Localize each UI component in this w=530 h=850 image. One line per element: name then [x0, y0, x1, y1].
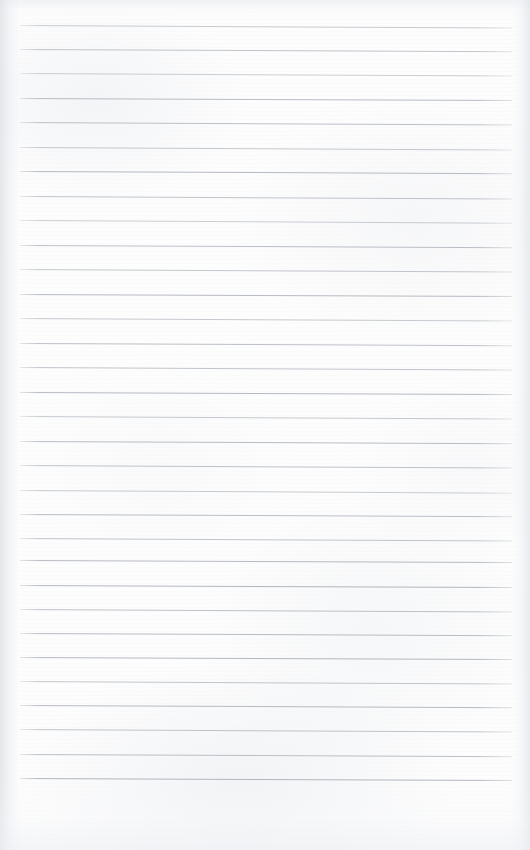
paper-background	[0, 0, 530, 850]
notebook-page	[0, 0, 530, 850]
